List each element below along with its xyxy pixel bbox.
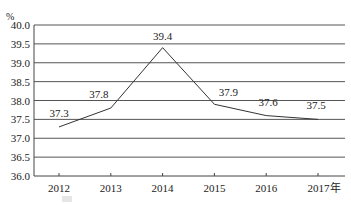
line-chart: % 36.036.537.037.538.038.539.039.540.0 2… — [0, 0, 351, 205]
y-tick-label: 36.5 — [11, 151, 31, 163]
y-tick-label: 36.0 — [11, 170, 31, 182]
y-tick-label: 38.5 — [11, 76, 31, 88]
x-tick-label: 2014 — [152, 182, 175, 194]
x-tick-label: 2013 — [100, 182, 123, 194]
y-tick-label: 40.0 — [11, 19, 31, 31]
x-tick-label: 2015 — [203, 182, 226, 194]
data-labels: 37.337.839.437.937.637.5 — [49, 30, 326, 119]
data-label: 39.4 — [153, 30, 173, 42]
x-tick-label: 2016 — [255, 182, 278, 194]
y-tick-label: 38.0 — [11, 95, 31, 107]
data-label: 37.9 — [219, 86, 239, 98]
x-tick-label: 2012 — [48, 182, 70, 194]
gridlines — [34, 25, 345, 176]
y-tick-label: 37.5 — [11, 113, 31, 125]
y-tick-label: 39.5 — [11, 38, 31, 50]
data-label: 37.8 — [89, 88, 109, 100]
x-tick-label: 2017年 — [308, 181, 341, 194]
y-tick-label: 37.0 — [11, 132, 31, 144]
data-label: 37.3 — [49, 107, 69, 119]
y-tick-label: 39.0 — [11, 57, 31, 69]
data-label: 37.5 — [306, 99, 326, 111]
caption-placeholder — [62, 196, 72, 202]
data-label: 37.6 — [259, 96, 279, 108]
y-axis-ticks: 36.036.537.037.538.038.539.039.540.0 — [11, 19, 31, 182]
